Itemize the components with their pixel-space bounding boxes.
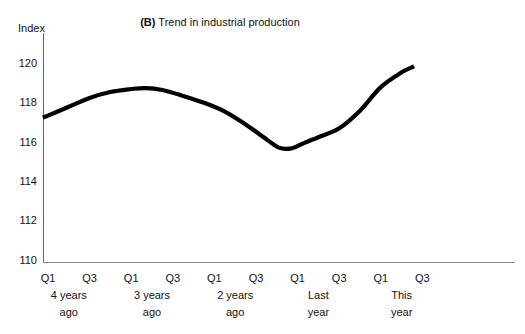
chart-figure: (B) Trend in industrial production Index… (0, 0, 525, 334)
y-tick-label: 110 (6, 254, 37, 267)
x-tick-label: Q1 (33, 272, 63, 285)
y-tick-label: 114 (6, 175, 37, 188)
x-group-label-line1: This (367, 289, 437, 302)
x-group-label-line1: 2 years (200, 289, 270, 302)
trend-line (43, 66, 414, 149)
x-tick-label: Q1 (116, 272, 146, 285)
y-tick-label: 118 (6, 96, 37, 109)
x-tick-label: Q1 (366, 272, 396, 285)
x-group-label-line2: year (367, 306, 437, 319)
x-group-label-line1: Last (283, 289, 353, 302)
x-tick-label: Q3 (75, 272, 105, 285)
y-tick-label: 120 (6, 57, 37, 70)
x-group-label-line2: ago (34, 306, 104, 319)
x-tick-label: Q3 (241, 272, 271, 285)
x-group-label-line1: 3 years (117, 289, 187, 302)
x-tick-label: Q3 (407, 272, 437, 285)
x-group-label-line2: year (283, 306, 353, 319)
x-group-label-line2: ago (200, 306, 270, 319)
x-tick-label: Q3 (324, 272, 354, 285)
x-tick-label: Q1 (199, 272, 229, 285)
x-group-label-line2: ago (117, 306, 187, 319)
y-tick-label: 116 (6, 136, 37, 149)
y-tick-label: 112 (6, 214, 37, 227)
x-tick-label: Q1 (283, 272, 313, 285)
x-tick-label: Q3 (158, 272, 188, 285)
x-group-label-line1: 4 years (34, 289, 104, 302)
